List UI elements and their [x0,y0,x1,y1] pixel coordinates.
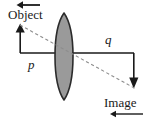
object-label: Object [8,8,43,21]
converging-lens [55,13,73,100]
principal-ray-dashed [20,25,136,89]
optics-ray-diagram: Object Image p q [0,0,153,123]
image-distance-label: q [105,33,112,46]
arrow-left-icon [110,111,116,117]
object-distance-label: p [28,58,35,71]
arrow-down-icon [129,78,138,89]
image-label: Image [104,96,136,109]
